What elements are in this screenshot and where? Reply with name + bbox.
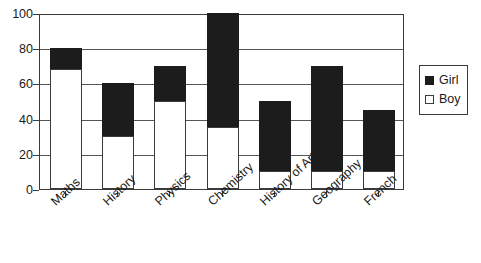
bar-segment-boy — [50, 69, 82, 189]
y-tick-label: 60 — [3, 78, 33, 91]
y-tick-label: 20 — [3, 149, 33, 162]
legend-item-boy: Boy — [425, 90, 467, 109]
chart-legend: Girl Boy — [419, 65, 468, 115]
y-tick-label: 0 — [3, 184, 33, 197]
legend-item-girl: Girl — [425, 71, 467, 90]
y-axis: 100806040200 — [0, 0, 33, 263]
bar-group — [207, 13, 239, 189]
bar-group — [102, 13, 134, 189]
bar-group — [363, 13, 395, 189]
bar-group — [259, 13, 291, 189]
bar-segment-girl — [50, 48, 82, 69]
y-tick-label: 100 — [3, 8, 33, 21]
legend-swatch-boy-icon — [425, 95, 434, 104]
bar-segment-girl — [259, 101, 291, 171]
bar-group — [50, 13, 82, 189]
bar-segment-girl — [154, 66, 186, 101]
y-tick-label: 40 — [3, 114, 33, 127]
bar-segment-girl — [207, 13, 239, 127]
legend-label-girl: Girl — [439, 74, 458, 87]
bar-group — [154, 13, 186, 189]
bar-segment-girl — [363, 110, 395, 172]
legend-label-boy: Boy — [439, 93, 461, 106]
stacked-bar-chart: 100806040200 MathsHistoryPhysicsChemistr… — [0, 0, 481, 263]
y-tick-label: 80 — [3, 43, 33, 56]
y-tick-mark — [33, 190, 39, 191]
bar-segment-girl — [102, 83, 134, 136]
legend-swatch-girl-icon — [425, 76, 434, 85]
